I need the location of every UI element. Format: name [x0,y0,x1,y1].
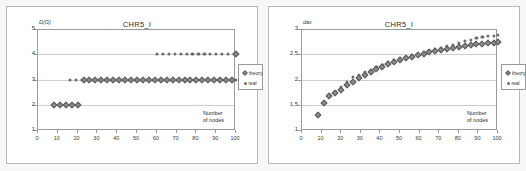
data-point-real [203,53,206,56]
x-tick-mark [156,130,157,133]
chart-area-left: CHR5_I D(G) Number of nodes theory real … [7,7,257,163]
y-tick-label: 1,5 [276,101,298,107]
data-point-real [496,33,499,36]
data-point-real [155,53,158,56]
x-axis-caption-right: Number of nodes [467,110,488,124]
x-tick-label: 20 [69,135,85,141]
x-tick-label: 70 [430,135,446,141]
data-point-real [215,53,218,56]
x-tick-label: 70 [168,135,184,141]
real-marker-icon [244,82,247,85]
data-point-theory [74,101,81,108]
x-tick-label: 0 [29,135,45,141]
x-tick-mark [477,130,478,133]
chart-title-right: CHR5_I [339,20,459,29]
x-tick-mark [77,130,78,133]
gridline-y [302,105,496,106]
x-tick-label: 0 [293,135,309,141]
x-tick-mark [235,130,236,133]
data-point-theory [338,86,345,93]
x-tick-mark [301,130,302,133]
x-tick-mark [321,130,322,133]
chart-panel-right: CHR5_I dav Number of nodes theory real 1… [268,6,520,164]
x-tick-label: 60 [148,135,164,141]
data-point-real [185,53,188,56]
data-point-real [74,78,77,81]
y-tick-mark [298,105,301,106]
x-tick-mark [497,130,498,133]
chart-title-left: CHR5_I [77,20,197,29]
gridline-y [38,29,234,30]
y-tick-label: 2 [276,76,298,82]
y-tick-label: 1 [276,126,298,132]
data-point-real [481,35,484,38]
x-tick-mark [215,130,216,133]
x-tick-mark [458,130,459,133]
x-tick-label: 10 [49,135,65,141]
data-point-theory [314,112,321,119]
figure-root: CHR5_I D(G) Number of nodes theory real … [0,0,526,171]
x-tick-label: 50 [128,135,144,141]
x-axis-caption-line1: Number [203,110,224,117]
x-tick-mark [399,130,400,133]
data-point-real [173,53,176,56]
x-tick-mark [116,130,117,133]
data-point-real [68,78,71,81]
legend-label-theory: theory [512,71,525,76]
x-axis-caption-line2: of nodes [467,117,488,124]
data-point-real [487,34,490,37]
legend-right[interactable]: theory real [501,64,526,90]
data-point-real [492,34,495,37]
x-tick-mark [96,130,97,133]
x-tick-label: 10 [313,135,329,141]
x-tick-label: 20 [332,135,348,141]
x-tick-label: 60 [411,135,427,141]
data-point-theory [232,51,239,58]
y-tick-label: 5 [13,25,35,31]
real-marker-icon [507,82,510,85]
x-axis-caption-line1: Number [467,110,488,117]
legend-label-real: real [249,81,257,86]
x-tick-label: 40 [371,135,387,141]
y-axis-label-right: dav [303,19,312,25]
legend-item-real[interactable]: real [505,78,522,88]
gridline-y [302,54,496,55]
legend-item-theory[interactable]: theory [242,68,259,78]
gridline-y [302,29,496,30]
x-tick-mark [136,130,137,133]
x-tick-label: 100 [489,135,505,141]
data-point-real [197,53,200,56]
x-tick-mark [340,130,341,133]
x-tick-mark [360,130,361,133]
x-tick-mark [57,130,58,133]
y-tick-mark [298,54,301,55]
y-tick-label: 4 [13,50,35,56]
x-tick-mark [195,130,196,133]
x-tick-label: 30 [88,135,104,141]
x-axis-caption-line2: of nodes [203,117,224,124]
gridline-y [302,80,496,81]
legend-item-real[interactable]: real [242,78,259,88]
x-tick-label: 50 [391,135,407,141]
y-tick-label: 2,5 [276,50,298,56]
y-tick-mark [298,80,301,81]
data-point-real [179,53,182,56]
y-axis-label-left: D(G) [39,19,51,25]
x-tick-label: 30 [352,135,368,141]
theory-marker-icon [505,70,511,76]
chart-area-right: CHR5_I dav Number of nodes theory real 1… [269,7,519,163]
y-tick-label: 1 [13,126,35,132]
data-point-real [191,53,194,56]
data-point-real [226,53,229,56]
x-tick-mark [379,130,380,133]
y-tick-label: 3 [13,76,35,82]
legend-item-theory[interactable]: theory [505,68,522,78]
legend-left[interactable]: theory real [238,64,263,90]
data-point-real [167,53,170,56]
x-tick-mark [176,130,177,133]
data-point-real [221,53,224,56]
x-tick-label: 90 [207,135,223,141]
x-tick-label: 80 [450,135,466,141]
y-tick-label: 3 [276,25,298,31]
y-tick-mark [298,29,301,30]
